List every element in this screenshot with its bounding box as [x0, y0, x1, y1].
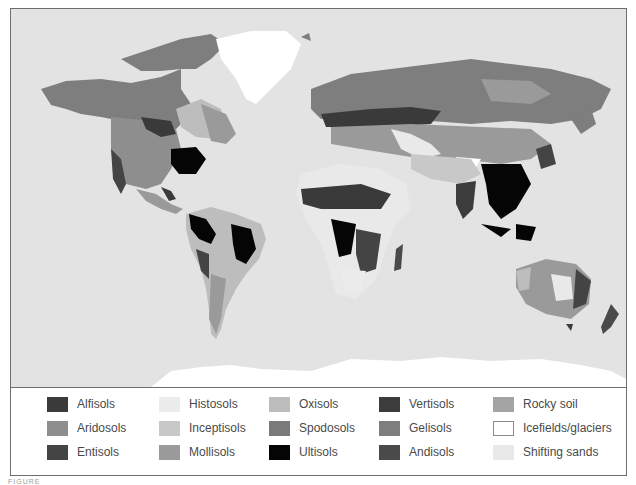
legend-label: Oxisols [299, 397, 338, 411]
south-america [186, 207, 266, 339]
greenland-icefield [216, 31, 301, 104]
legend-label: Aridosols [77, 421, 126, 435]
legend-item-spodosols: Spodosols [269, 418, 355, 438]
legend-label: Rocky soil [523, 397, 578, 411]
legend-label: Gelisols [409, 421, 452, 435]
legend-item-vertisols: Vertisols [379, 394, 454, 414]
legend-item-aridosols: Aridosols [47, 418, 126, 438]
swatch-oxisols [269, 397, 290, 412]
legend-item-rocky-soil: Rocky soil [493, 394, 578, 414]
legend-label: Icefields/glaciers [523, 421, 612, 435]
legend-label: Shifting sands [523, 445, 598, 459]
legend-item-mollisols: Mollisols [159, 442, 235, 462]
figure-frame: Alfisols Aridosols Entisols Histosols In… [10, 8, 627, 476]
indonesia [481, 224, 536, 241]
legend-item-histosols: Histosols [159, 394, 238, 414]
legend-label: Entisols [77, 445, 119, 459]
figure-caption: FIGURE [8, 478, 40, 485]
north-america [41, 34, 236, 214]
legend-item-ultisols: Ultisols [269, 442, 338, 462]
legend-item-alfisols: Alfisols [47, 394, 115, 414]
swatch-andisols [379, 445, 400, 460]
swatch-icefields-glaciers [493, 421, 514, 436]
legend-item-inceptisols: Inceptisols [159, 418, 246, 438]
legend-item-icefields-glaciers: Icefields/glaciers [493, 418, 612, 438]
swatch-spodosols [269, 421, 290, 436]
swatch-ultisols [269, 445, 290, 460]
legend: Alfisols Aridosols Entisols Histosols In… [11, 388, 626, 475]
legend-label: Andisols [409, 445, 454, 459]
legend-label: Mollisols [189, 445, 235, 459]
swatch-vertisols [379, 397, 400, 412]
swatch-histosols [159, 397, 180, 412]
new-zealand [601, 304, 619, 334]
world-soil-map [11, 9, 626, 388]
antarctica-icefield [151, 357, 626, 387]
africa [296, 164, 411, 299]
swatch-inceptisols [159, 421, 180, 436]
legend-label: Vertisols [409, 397, 454, 411]
australia [516, 259, 591, 331]
legend-label: Ultisols [299, 445, 338, 459]
legend-label: Alfisols [77, 397, 115, 411]
legend-item-andisols: Andisols [379, 442, 454, 462]
swatch-entisols [47, 445, 68, 460]
legend-label: Inceptisols [189, 421, 246, 435]
legend-item-oxisols: Oxisols [269, 394, 338, 414]
legend-item-gelisols: Gelisols [379, 418, 452, 438]
swatch-gelisols [379, 421, 400, 436]
swatch-shifting-sands [493, 445, 514, 460]
swatch-rocky-soil [493, 397, 514, 412]
map-graphic [11, 9, 626, 387]
legend-item-entisols: Entisols [47, 442, 119, 462]
legend-item-shifting-sands: Shifting sands [493, 442, 598, 462]
swatch-aridosols [47, 421, 68, 436]
legend-label: Spodosols [299, 421, 355, 435]
swatch-mollisols [159, 445, 180, 460]
legend-label: Histosols [189, 397, 238, 411]
swatch-alfisols [47, 397, 68, 412]
